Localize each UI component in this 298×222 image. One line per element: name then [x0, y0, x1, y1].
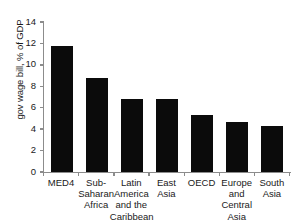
y-tick-label-6: 6 — [31, 101, 36, 112]
bar-oecd — [191, 115, 213, 172]
y-tick-label-10: 10 — [25, 58, 36, 69]
x-category-line: South — [250, 177, 293, 188]
bar-chart-figure: gov wage bill, % of GDP 0 2 4 6 8 10 12 … — [0, 0, 298, 222]
x-category-line: and the — [110, 199, 153, 210]
x-category-line: Caribbean — [110, 211, 153, 222]
x-category-line: Asia — [145, 188, 188, 199]
x-tick-mark-2 — [113, 172, 114, 176]
x-tick-mark-0 — [43, 172, 44, 176]
bar-latin-america-and-the-caribbean — [121, 99, 143, 172]
x-category-line: Asia — [215, 211, 258, 222]
bar-med4 — [51, 46, 73, 172]
x-tick-mark-3 — [148, 172, 149, 176]
y-tick-label-14: 14 — [25, 16, 36, 27]
x-tick-mark-6 — [254, 172, 255, 176]
x-category-line: Asia — [250, 188, 293, 199]
x-tick-mark-5 — [219, 172, 220, 176]
bar-south-asia — [261, 126, 283, 172]
bar-east-asia — [156, 99, 178, 172]
y-tick-label-8: 8 — [31, 80, 36, 91]
y-tick-label-12: 12 — [25, 37, 36, 48]
x-tick-mark-7 — [289, 172, 290, 176]
bar-sub-saharan-africa — [86, 78, 108, 172]
x-category-label-south-asia: South Asia — [250, 177, 293, 199]
x-tick-mark-4 — [184, 172, 185, 176]
y-tick-label-0: 0 — [31, 166, 36, 177]
plot-area — [44, 22, 290, 172]
y-tick-label-4: 4 — [31, 123, 36, 134]
x-tick-mark-1 — [78, 172, 79, 176]
bar-europe-and-central-asia — [226, 122, 248, 172]
x-category-line: Central — [215, 199, 258, 210]
y-axis-title: gov wage bill, % of GDP — [14, 0, 25, 145]
y-tick-label-2: 2 — [31, 144, 36, 155]
